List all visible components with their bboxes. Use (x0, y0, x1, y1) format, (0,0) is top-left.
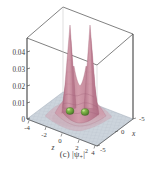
surface-plot-figure: 0.04 0.03 0.02 0.01 0 -4 -2 0 2 4 z -5 0… (0, 0, 148, 171)
depth-tick-label-1: -2 (41, 131, 47, 138)
caption-symbol: |ψ (72, 149, 79, 159)
green-sphere-left-highlight (67, 109, 69, 111)
caption-superscript: 2 (85, 148, 88, 154)
vertical-tick-label-2: 0.02 (12, 83, 25, 91)
horizontal-axis-label: x (131, 129, 136, 138)
caption-panel-label: (c) (60, 149, 70, 159)
horizontal-tick-label-1: 0 (121, 128, 125, 135)
horizontal-tick-label-0: -5 (139, 115, 145, 122)
vertical-tick-label-1: 0.03 (12, 66, 25, 74)
vertical-tick-label-3: 0.01 (12, 100, 25, 108)
green-sphere-left (66, 107, 74, 114)
depth-tick-label-0: -4 (24, 124, 30, 131)
figure-caption: (c) |ψ+|2 (0, 148, 148, 160)
depth-tick-label-2: 0 (58, 137, 62, 144)
vertical-tick-label-0: 0.04 (12, 49, 25, 57)
green-sphere-right-highlight (82, 110, 84, 112)
vertical-tick-label-4: 0 (21, 116, 25, 124)
green-sphere-right (81, 108, 89, 115)
